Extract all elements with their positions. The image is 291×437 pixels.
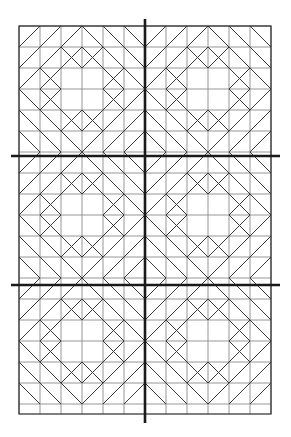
figure-root — [0, 0, 291, 437]
quilt-pattern-diagram — [0, 0, 291, 437]
